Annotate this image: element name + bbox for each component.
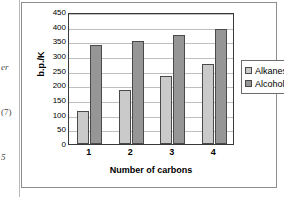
y-axis-tick-label: 100 xyxy=(53,112,66,120)
bar-alcohols-2[interactable] xyxy=(132,41,144,144)
bar-group xyxy=(111,13,153,144)
legend-swatch-icon xyxy=(245,67,252,74)
y-axis-tick-label: 350 xyxy=(53,38,66,46)
legend-swatch-icon xyxy=(245,80,252,87)
legend-label: Alcohols xyxy=(255,79,284,89)
x-axis-tick-label: 2 xyxy=(115,147,145,157)
y-axis-tick-label: 200 xyxy=(53,82,66,90)
bar-alkanes-4[interactable] xyxy=(202,64,214,144)
bar-group xyxy=(69,13,111,144)
bar-group xyxy=(194,13,235,144)
margin-line-1: er xyxy=(1,62,9,72)
margin-line-2: (7) xyxy=(1,107,12,117)
x-axis-title: Number of carbons xyxy=(68,165,234,175)
y-axis-tick-label: 400 xyxy=(53,24,66,32)
x-axis-tick-label: 4 xyxy=(198,147,228,157)
chart-container: b.p./K 450400350300250200150100500 1234 … xyxy=(21,2,277,188)
bar-alkanes-3[interactable] xyxy=(160,76,172,144)
legend-item-alkanes[interactable]: Alkanes xyxy=(245,64,284,77)
margin-line-3: 5 xyxy=(1,152,6,162)
bar-group xyxy=(152,13,194,144)
legend-item-alcohols[interactable]: Alcohols xyxy=(245,77,284,90)
y-axis-tick-label: 450 xyxy=(53,9,66,17)
page-divider-rule xyxy=(19,0,20,197)
bar-alcohols-1[interactable] xyxy=(90,45,102,144)
bar-alkanes-1[interactable] xyxy=(77,111,89,144)
plot-area xyxy=(68,13,234,145)
bar-alcohols-4[interactable] xyxy=(215,29,227,144)
page-margin-text: er (7) 5 xyxy=(0,0,20,197)
chart-legend: AlkanesAlcohols xyxy=(241,60,284,94)
legend-label: Alkanes xyxy=(255,66,284,76)
x-axis-tick-label: 1 xyxy=(74,147,104,157)
y-axis-tick-label: 300 xyxy=(53,53,66,61)
x-axis-tick-labels: 1234 xyxy=(68,147,234,161)
y-axis-tick-label: 0 xyxy=(62,141,66,149)
x-axis-tick-label: 3 xyxy=(157,147,187,157)
y-axis-tick-labels: 450400350300250200150100500 xyxy=(44,7,66,151)
y-axis-tick-label: 150 xyxy=(53,97,66,105)
bar-alkanes-2[interactable] xyxy=(119,90,131,144)
bar-alcohols-3[interactable] xyxy=(173,35,185,144)
y-axis-tick-label: 50 xyxy=(57,126,66,134)
y-axis-tick-label: 250 xyxy=(53,68,66,76)
